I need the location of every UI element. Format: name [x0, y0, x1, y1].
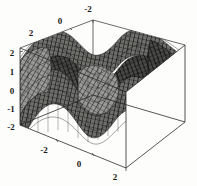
- z-tick-0: 0: [10, 86, 15, 96]
- bottom-axis-labels: -2 0 2: [40, 145, 118, 182]
- plot-canvas: 2 1 0 -1 -2 2 0 -2 -2 0 2: [0, 0, 197, 186]
- bottom-tick-neg2: -2: [40, 145, 48, 155]
- top-tick-neg2: -2: [84, 4, 92, 14]
- surface-mesh: [20, 29, 185, 144]
- surface-plot-figure: 2 1 0 -1 -2 2 0 -2 -2 0 2: [0, 0, 197, 186]
- z-tick-neg1: -1: [7, 104, 15, 114]
- z-tick-1: 1: [10, 67, 15, 77]
- z-axis-labels: 2 1 0 -1 -2: [7, 48, 15, 132]
- bottom-tick-2: 2: [113, 172, 118, 182]
- bottom-tick-0: 0: [77, 159, 82, 169]
- surface-right-peak: [148, 40, 185, 140]
- surface-centre-saddle: [78, 66, 119, 115]
- z-tick-2: 2: [10, 48, 15, 58]
- top-tick-0: 0: [58, 16, 63, 26]
- top-tick-2: 2: [29, 28, 34, 38]
- z-tick-neg2: -2: [7, 122, 15, 132]
